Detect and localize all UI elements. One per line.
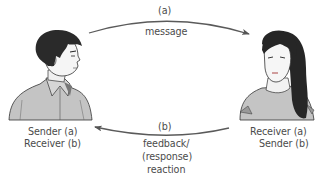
- feedback-arrow-tag: (b): [158, 121, 171, 133]
- message-label: message: [145, 26, 187, 38]
- feedback-label-line-1: feedback/: [143, 138, 189, 150]
- right-role-receiver: Receiver (a): [250, 126, 307, 138]
- right-role-sender: Sender (b): [259, 138, 309, 150]
- feedback-label-line-2: (response): [142, 151, 192, 163]
- man-figure-icon: [9, 30, 92, 120]
- woman-figure-icon: [240, 31, 314, 121]
- left-role-receiver: Receiver (b): [24, 138, 81, 150]
- feedback-label-line-3: reaction: [147, 164, 185, 176]
- message-arrow-tag: (a): [158, 5, 171, 17]
- left-role-sender: Sender (a): [28, 126, 77, 138]
